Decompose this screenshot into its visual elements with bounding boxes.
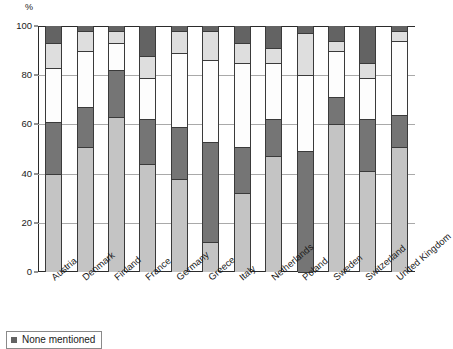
bar-segment bbox=[235, 147, 250, 194]
bar-segment bbox=[46, 43, 61, 68]
bar-segment bbox=[140, 119, 155, 163]
bar-germany bbox=[171, 26, 188, 272]
bar-segment bbox=[109, 70, 124, 117]
bar-segment bbox=[329, 26, 344, 41]
bar-united-kingdom bbox=[391, 26, 408, 272]
bar-netherlands bbox=[265, 26, 282, 272]
segment-divider bbox=[203, 60, 218, 61]
segment-divider bbox=[140, 119, 155, 120]
bar-denmark bbox=[77, 26, 94, 272]
bar-segment bbox=[172, 53, 187, 127]
bars-container bbox=[38, 26, 415, 272]
bar-segment bbox=[78, 147, 93, 272]
bar-segment bbox=[78, 107, 93, 146]
segment-divider bbox=[266, 119, 281, 120]
bar-segment bbox=[172, 127, 187, 179]
bar-segment bbox=[266, 119, 281, 156]
bar-segment bbox=[266, 26, 281, 48]
segment-divider bbox=[172, 53, 187, 54]
segment-divider bbox=[329, 97, 344, 98]
segment-divider bbox=[329, 51, 344, 52]
y-tick-label: 100 bbox=[16, 21, 38, 31]
bar-segment bbox=[360, 63, 375, 78]
segment-divider bbox=[392, 41, 407, 42]
segment-divider bbox=[266, 63, 281, 64]
segment-divider bbox=[78, 31, 93, 32]
bar-segment bbox=[266, 156, 281, 272]
segment-divider bbox=[140, 78, 155, 79]
bar-segment bbox=[140, 164, 155, 272]
x-axis-labels: AustriaDenmarkFinlandFranceGermanyGreece… bbox=[38, 274, 415, 334]
segment-divider bbox=[360, 171, 375, 172]
bar-segment bbox=[235, 43, 250, 63]
segment-divider bbox=[266, 48, 281, 49]
segment-divider bbox=[392, 147, 407, 148]
bar-segment bbox=[140, 26, 155, 56]
segment-divider bbox=[235, 43, 250, 44]
segment-divider bbox=[140, 56, 155, 57]
segment-divider bbox=[203, 242, 218, 243]
bar-switzerland bbox=[359, 26, 376, 272]
segment-divider bbox=[46, 43, 61, 44]
segment-divider bbox=[203, 31, 218, 32]
bar-segment bbox=[46, 26, 61, 43]
bar-segment bbox=[298, 26, 313, 33]
segment-divider bbox=[46, 68, 61, 69]
bar-segment bbox=[203, 142, 218, 243]
segment-divider bbox=[235, 63, 250, 64]
bar-segment bbox=[235, 193, 250, 272]
bar-segment bbox=[46, 174, 61, 272]
segment-divider bbox=[78, 107, 93, 108]
segment-divider bbox=[109, 31, 124, 32]
segment-divider bbox=[78, 147, 93, 148]
bar-segment bbox=[78, 31, 93, 51]
segment-divider bbox=[298, 75, 313, 76]
bar-segment bbox=[140, 56, 155, 78]
segment-divider bbox=[329, 41, 344, 42]
y-tick-label: 20 bbox=[21, 218, 38, 228]
bar-segment bbox=[203, 60, 218, 141]
segment-divider bbox=[172, 179, 187, 180]
bar-segment bbox=[392, 41, 407, 115]
bar-finland bbox=[108, 26, 125, 272]
bar-segment bbox=[78, 51, 93, 108]
bar-segment bbox=[329, 97, 344, 124]
segment-divider bbox=[235, 193, 250, 194]
bar-austria bbox=[45, 26, 62, 272]
bar-segment bbox=[172, 31, 187, 53]
legend-label: None mentioned bbox=[22, 334, 95, 345]
segment-divider bbox=[392, 115, 407, 116]
bar-segment bbox=[172, 179, 187, 272]
segment-divider bbox=[172, 127, 187, 128]
bar-segment bbox=[109, 43, 124, 70]
bar-segment bbox=[360, 26, 375, 63]
plot-area: 020406080100 bbox=[38, 26, 415, 272]
bar-segment bbox=[46, 68, 61, 122]
segment-divider bbox=[329, 124, 344, 125]
bar-segment bbox=[109, 31, 124, 43]
segment-divider bbox=[360, 63, 375, 64]
segment-divider bbox=[109, 43, 124, 44]
bar-segment bbox=[235, 63, 250, 147]
segment-divider bbox=[109, 117, 124, 118]
y-tick-label: 40 bbox=[21, 169, 38, 179]
bar-sweden bbox=[328, 26, 345, 272]
bar-segment bbox=[109, 117, 124, 272]
segment-divider bbox=[235, 147, 250, 148]
segment-divider bbox=[392, 31, 407, 32]
y-axis-unit-label: % bbox=[25, 2, 33, 12]
segment-divider bbox=[203, 142, 218, 143]
segment-divider bbox=[109, 70, 124, 71]
bar-segment bbox=[392, 31, 407, 41]
bar-segment bbox=[360, 78, 375, 120]
bar-segment bbox=[298, 33, 313, 75]
bar-france bbox=[139, 26, 156, 272]
bar-segment bbox=[329, 124, 344, 272]
segment-divider bbox=[172, 31, 187, 32]
segment-divider bbox=[298, 33, 313, 34]
y-tick-label: 80 bbox=[21, 70, 38, 80]
segment-divider bbox=[46, 122, 61, 123]
y-tick-label: 60 bbox=[21, 119, 38, 129]
segment-divider bbox=[78, 51, 93, 52]
y-tick-label: 0 bbox=[27, 267, 38, 277]
